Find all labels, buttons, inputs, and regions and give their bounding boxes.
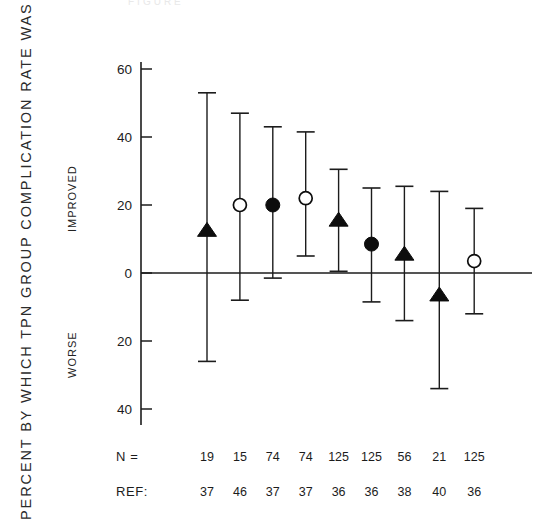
n-value: 74 [266, 450, 280, 464]
marker-filled-triangle [329, 212, 348, 226]
data-point-group [363, 188, 381, 302]
ref-row-label: REF: [116, 484, 148, 499]
n-value: 125 [361, 450, 382, 464]
n-value: 74 [299, 450, 313, 464]
marker-open-circle [233, 199, 246, 212]
ref-value: 46 [233, 485, 247, 499]
n-value: 56 [397, 450, 411, 464]
marker-open-circle [468, 255, 481, 268]
ref-value: 37 [266, 485, 280, 499]
data-point-group [395, 186, 414, 320]
marker-filled-triangle [395, 246, 414, 260]
ref-value: 36 [332, 485, 346, 499]
n-value: 19 [200, 450, 214, 464]
ref-value: 37 [200, 485, 214, 499]
data-point-group [198, 93, 217, 362]
ref-value: 40 [432, 485, 446, 499]
marker-filled-triangle [198, 222, 217, 236]
n-value: 15 [233, 450, 247, 464]
ref-value: 36 [467, 485, 481, 499]
marker-filled-circle [266, 198, 280, 212]
marker-filled-circle [365, 237, 379, 251]
data-point-group [465, 208, 483, 313]
marker-open-circle [299, 192, 312, 205]
y-tick-label: 40 [117, 130, 132, 145]
data-point-group [329, 169, 348, 271]
y-tick-label: 60 [117, 62, 132, 77]
data-point-group [264, 127, 282, 278]
bottom-annotation-rows: N =REF:191574741251255621125374637373636… [116, 449, 485, 499]
data-point-group [297, 132, 315, 256]
data-point-group [430, 191, 449, 388]
ref-value: 37 [299, 485, 313, 499]
data-series [198, 93, 484, 389]
ref-value: 36 [365, 485, 379, 499]
marker-filled-triangle [430, 287, 449, 301]
n-value: 125 [328, 450, 349, 464]
chart-plot: 60402002040 N =REF:191574741251255621125… [0, 0, 556, 527]
y-tick-label: 20 [117, 198, 132, 213]
ref-value: 38 [397, 485, 411, 499]
n-row-label: N = [116, 449, 138, 464]
y-axis: 60402002040 [117, 62, 152, 425]
y-tick-label: 20 [117, 334, 132, 349]
n-value: 125 [464, 450, 485, 464]
figure-root: FIGURE PERCENT BY WHICH TPN GROUP COMPLI… [0, 0, 556, 527]
y-tick-label: 0 [124, 266, 132, 281]
y-tick-label: 40 [117, 402, 132, 417]
data-point-group [231, 113, 249, 300]
n-value: 21 [432, 450, 446, 464]
